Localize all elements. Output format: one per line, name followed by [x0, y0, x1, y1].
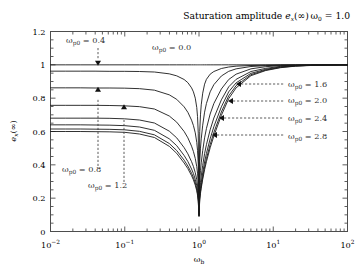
y-tick-label: 0.6: [32, 127, 45, 137]
y-tick-label: 0.4: [32, 160, 45, 170]
y-tick-label: 1: [40, 60, 45, 70]
omega-zero-note: ω0 = 1.0: [311, 10, 351, 22]
saturation-amplitude-chart: Saturation amplitude ex(∞) ω0 = 1.0 10−2…: [0, 0, 364, 273]
y-tick-label: 0.8: [32, 93, 45, 103]
figure-container: Saturation amplitude ex(∞) ω0 = 1.0 10−2…: [0, 0, 364, 273]
y-tick-label: 0: [40, 227, 45, 237]
chart-title: Saturation amplitude ex(∞): [183, 10, 309, 22]
y-tick-label: 0.2: [32, 193, 45, 203]
y-axis-label: ex(∞): [8, 120, 19, 141]
y-tick-label: 1.2: [32, 27, 45, 37]
